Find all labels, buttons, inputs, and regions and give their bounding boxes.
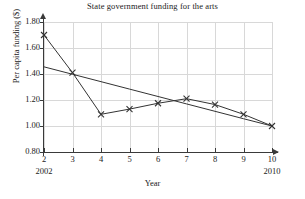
x-axis-tick-label: 6 [148,154,168,164]
y-axis-line [43,18,44,156]
plot-area [44,22,272,152]
y-axis-arrow-icon [40,13,46,19]
chart-title: State government funding for the arts [0,1,305,11]
x-axis-year-label: 2010 [252,166,292,176]
y-axis-label: Per capita funding ($) [11,0,21,106]
x-axis-tick-mark [244,148,245,153]
x-axis-tick-label: 3 [63,154,83,164]
x-axis-tick-label: 5 [120,154,140,164]
y-axis-tick-label: 1.00 [0,120,40,130]
x-axis-tick-mark [215,148,216,153]
x-axis-tick-mark [101,148,102,153]
x-axis-tick-label: 8 [205,154,225,164]
x-axis-tick-mark [158,148,159,153]
x-axis-tick-label: 9 [234,154,254,164]
x-axis-tick-label: 4 [91,154,111,164]
x-axis-tick-label: 7 [177,154,197,164]
x-axis-tick-mark [187,148,188,153]
x-axis-tick-mark [44,148,45,153]
data-point-marker [241,111,247,117]
x-axis-tick-mark [130,148,131,153]
chart-container: State government funding for the arts Pe… [0,0,305,199]
series-layer [44,22,272,152]
x-axis-tick-label: 2 [34,154,54,164]
gridline-vertical [272,22,273,152]
series-line [44,67,272,126]
x-axis-label: Year [0,178,305,188]
series-line [44,35,272,126]
x-axis-tick-label: 10 [262,154,282,164]
data-point-marker [41,32,47,38]
x-axis-year-label: 2002 [24,166,64,176]
x-axis-tick-mark [272,148,273,153]
x-axis-tick-mark [73,148,74,153]
